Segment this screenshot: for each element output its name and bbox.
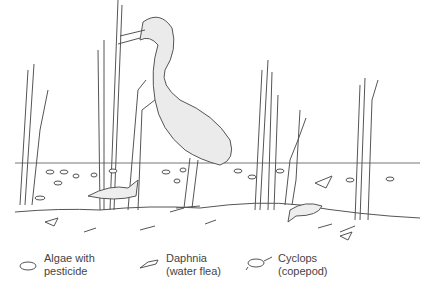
legend-item-cyclops: Cyclops (copepod) [278,252,328,278]
pond-bed [15,203,420,218]
reeds-right [255,60,378,220]
small-organisms [45,218,355,240]
food-chain-illustration [0,0,435,290]
daphnia-icon [138,258,160,270]
algae-icon [18,260,38,272]
cyclops-icon [244,255,274,271]
legend-item-algae: Algae with pesticide [44,252,95,278]
legend-item-daphnia: Daphnia (water flea) [166,252,221,278]
